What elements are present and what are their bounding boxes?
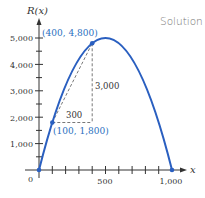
rise-label: 3,000	[95, 81, 119, 91]
point-origin	[37, 168, 42, 173]
y-tick-2000: 2,000	[10, 114, 33, 123]
y-axis-title: R(x)	[26, 5, 48, 16]
point-1000-0	[170, 168, 175, 173]
x-tick-1000: 1,000	[160, 177, 183, 186]
y-tick-3000: 3,000	[10, 87, 33, 96]
point-100-1800	[50, 120, 55, 125]
run-label: 300	[66, 110, 82, 120]
origin-label: 0	[28, 175, 33, 184]
y-axis-arrow-icon	[37, 18, 42, 25]
x-tick-500: 500	[97, 177, 112, 186]
point-label-400-4800: (400, 4,800)	[42, 28, 98, 38]
y-tick-4000: 4,000	[10, 61, 33, 70]
revenue-curve	[39, 38, 172, 170]
point-label-100-1800: (100, 1,800)	[53, 126, 109, 136]
revenue-chart: 5,000 4,000 3,000 2,000 1,000 0 500 1,00…	[0, 0, 205, 198]
point-400-4800	[90, 41, 95, 46]
y-axis	[37, 18, 42, 178]
y-tick-5000: 5,000	[10, 34, 33, 43]
x-axis-arrow-icon	[180, 168, 187, 173]
y-tick-1000: 1,000	[10, 140, 33, 149]
x-axis-title: x	[190, 164, 196, 175]
